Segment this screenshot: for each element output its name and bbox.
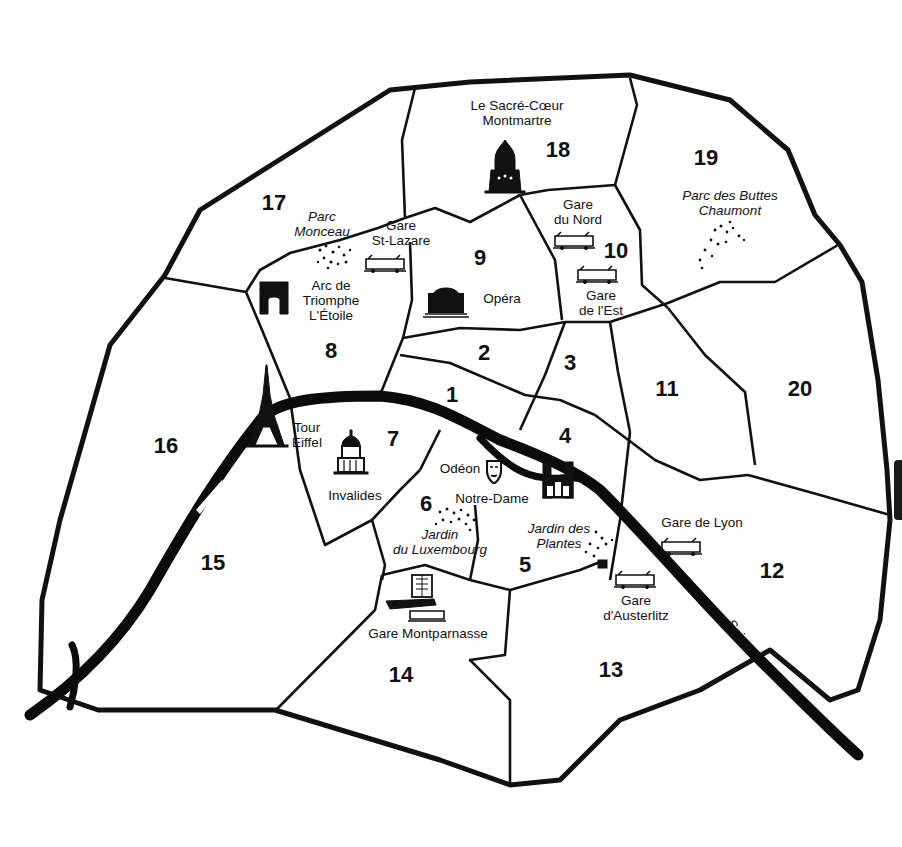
train-icon [364,255,406,273]
arrondissement-number: 2 [478,340,490,365]
train-icon [576,266,618,284]
landmark-label-gare-st-lazare: GareSt-Lazare [372,218,431,248]
dome-icon [334,430,368,474]
paris-map: Seine 1234567891011121314151617181920 Le… [0,0,902,847]
landmark-label-gare-montparnasse: Gare Montparnasse [368,626,487,641]
landmark-label-odeon: Odéon [440,461,481,476]
theatre-mask-icon [487,461,501,483]
park-icon [699,221,746,270]
train-icon [553,232,595,250]
train-icon [614,571,656,589]
landmark-labels: Le Sacré-CœurMontmartreParcMonceauGareSt… [292,98,778,641]
landmark-label-buttes-chaumont: Parc des ButtesChaumont [682,188,778,218]
arrondissement-number: 16 [154,433,178,458]
arrondissement-number: 11 [655,376,678,401]
park-icon [317,245,352,270]
landmark-label-jardin-des-plantes: Jardin desPlantes [527,521,591,551]
opera-icon [423,288,469,317]
arrondissement-number: 4 [559,423,572,448]
landmark-label-gare-d-austerlitz: Gared'Austerlitz [603,593,669,623]
arrondissement-number: 1 [446,382,458,407]
arch-icon [260,282,288,314]
arrondissement-number: 19 [694,145,718,170]
arrondissement-number: 7 [387,426,399,451]
basilica-icon [485,140,525,193]
arrondissement-number: 8 [325,338,337,363]
landmark-label-luxembourg: Jardindu Luxembourg [393,527,487,557]
city-boundary [40,75,890,785]
landmark-label-gare-de-lyon: Gare de Lyon [661,515,742,530]
landmark-label-sacre-coeur: Le Sacré-CœurMontmartre [470,98,564,128]
landmark-label-parc-monceau: ParcMonceau [294,209,350,239]
landmark-label-gare-du-nord: Garedu Nord [554,197,602,227]
arrondissement-number: 14 [389,662,414,687]
arrondissement-number: 12 [760,558,784,583]
park-icon [585,531,614,568]
tower-train-icon [386,575,446,621]
arrondissement-number: 17 [262,190,286,215]
arrondissement-number: 15 [201,550,225,575]
landmark-label-invalides: Invalides [328,488,382,503]
arrondissement-number: 3 [564,350,576,375]
landmark-label-notre-dame: Notre-Dame [455,491,529,506]
arrondissement-number: 13 [599,657,623,682]
arrondissement-number: 20 [788,376,812,401]
arrondissement-number: 10 [604,238,628,263]
landmark-label-gare-de-l-est: Garede l'Est [579,288,623,318]
arrondissement-number: 18 [546,137,570,162]
landmark-label-opera: Opéra [483,291,521,306]
arrondissement-number: 9 [474,245,486,270]
landmark-label-tour-eiffel: TourEiffel [292,420,322,450]
landmark-label-arc-de-triomphe: Arc deTriompheL'Étoile [303,278,360,323]
arrondissement-number: 6 [420,491,432,516]
arrondissement-number: 5 [519,552,531,577]
